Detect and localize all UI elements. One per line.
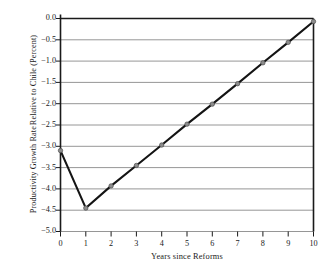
data-line-series-1: [61, 21, 314, 208]
chart-figure: Productivity Growth Rate Relative to Chi…: [0, 0, 331, 280]
data-point-marker: [134, 163, 138, 167]
data-point-marker: [58, 148, 62, 152]
data-point-marker: [160, 143, 164, 147]
data-point-markers: [58, 19, 315, 210]
data-point-marker: [185, 122, 189, 126]
tick-marks: [56, 19, 314, 237]
data-point-marker: [261, 61, 265, 65]
data-point-marker: [210, 102, 214, 106]
data-point-marker: [84, 206, 88, 210]
plot-area: [0, 0, 331, 280]
data-point-marker: [311, 19, 315, 23]
data-point-marker: [109, 184, 113, 188]
data-point-marker: [235, 81, 239, 85]
data-point-marker: [286, 40, 290, 44]
